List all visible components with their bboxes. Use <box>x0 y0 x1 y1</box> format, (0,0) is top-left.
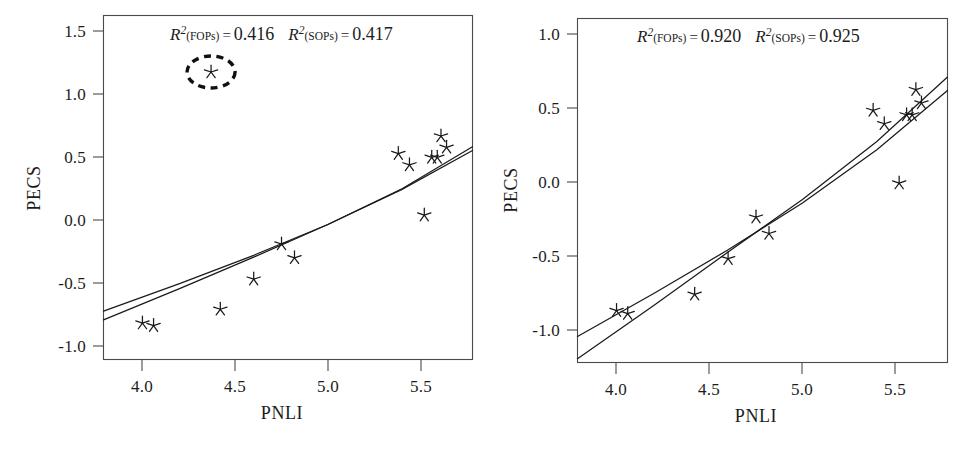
r2-sops-equals-right: = <box>808 29 816 45</box>
plot-frame-right <box>578 19 948 363</box>
r2-fops-value-right: 0.920 <box>701 26 742 46</box>
fit-line-left-fops <box>104 150 473 311</box>
y-axis-ticks-right <box>567 34 578 330</box>
scatter-markers-left <box>136 65 453 331</box>
data-point-marker <box>440 140 453 153</box>
x-axis-ticks-left <box>142 360 421 372</box>
r2-fops-symbol-right: R <box>636 27 648 46</box>
panel-right-canvas: 1.0 0.5 0.0 -0.5 -1.0 4.0 4.5 5.0 5.5 PN… <box>485 0 970 450</box>
r2-sops-subscript-right: (SOPs) <box>771 32 804 45</box>
data-point-marker <box>878 117 891 130</box>
r2-sops-symbol-left: R <box>287 25 299 44</box>
y-tick-label-left-4: -0.5 <box>58 274 86 293</box>
data-point-marker <box>749 210 762 223</box>
y-tick-label-left-5: -1.0 <box>58 337 86 356</box>
r2-sops-value-left: 0.417 <box>352 24 393 44</box>
data-point-marker <box>418 208 431 221</box>
data-point-marker <box>403 158 416 171</box>
r2-fops-equals-left: = <box>222 27 230 43</box>
y-axis-title-right: PECS <box>501 167 521 212</box>
panel-left: 1.5 1.0 0.5 0.0 -0.5 -1.0 4.0 4.5 5.0 5.… <box>0 0 485 450</box>
fit-line-right-sops <box>578 77 948 359</box>
y-axis-ticks-left <box>93 31 104 346</box>
r2-sops-subscript-left: (SOPs) <box>304 30 337 43</box>
r2-fops-value-left: 0.416 <box>234 24 275 44</box>
r2-sops-value-right: 0.925 <box>819 26 860 46</box>
x-tick-label-left-3: 5.5 <box>410 377 432 396</box>
data-point-marker <box>915 96 928 109</box>
x-tick-label-left-2: 5.0 <box>317 377 339 396</box>
svg-text:R2(FOPs)=0.416R2(SOPs)=0.417: R2(FOPs)=0.416R2(SOPs)=0.417 <box>169 24 393 44</box>
r2-annotation-right: R2(FOPs)=0.920R2(SOPs)=0.925 <box>636 26 860 46</box>
svg-text:R2(FOPs)=0.920R2(SOPs)=0.925: R2(FOPs)=0.920R2(SOPs)=0.925 <box>636 26 860 46</box>
r2-sops-symbol-right: R <box>754 27 766 46</box>
x-tick-label-left-1: 4.5 <box>224 377 246 396</box>
y-tick-label-right-0: 1.0 <box>538 25 560 44</box>
r2-fops-subscript-right: (FOPs) <box>653 32 686 45</box>
y-tick-label-right-4: -1.0 <box>532 321 560 340</box>
x-tick-label-right-2: 5.0 <box>791 380 813 399</box>
x-axis-title-left: PNLI <box>261 403 303 423</box>
r2-sops-equals-left: = <box>341 27 349 43</box>
plot-frame-left <box>104 16 473 360</box>
panel-left-canvas: 1.5 1.0 0.5 0.0 -0.5 -1.0 4.0 4.5 5.0 5.… <box>0 0 485 450</box>
x-tick-label-right-3: 5.5 <box>884 380 906 399</box>
fit-lines-left <box>104 147 473 320</box>
data-point-marker <box>866 103 879 116</box>
y-tick-label-left-2: 0.5 <box>64 148 86 167</box>
data-point-marker <box>434 129 447 142</box>
fit-line-left-sops <box>104 147 473 320</box>
y-tick-label-right-3: -0.5 <box>532 247 560 266</box>
y-tick-label-left-0: 1.5 <box>64 22 86 41</box>
x-axis-title-right: PNLI <box>735 406 777 426</box>
data-point-marker <box>392 147 405 160</box>
data-point-marker <box>288 251 301 264</box>
r2-annotation-left: R2(FOPs)=0.416R2(SOPs)=0.417 <box>169 24 393 44</box>
x-axis-ticks-right <box>616 363 895 375</box>
y-tick-label-left-1: 1.0 <box>64 85 86 104</box>
fit-lines-right <box>578 77 948 359</box>
r2-fops-subscript-left: (FOPs) <box>186 30 219 43</box>
y-tick-label-left-3: 0.0 <box>64 211 86 230</box>
r2-fops-equals-right: = <box>689 29 697 45</box>
data-point-marker <box>893 176 906 189</box>
x-tick-label-left-0: 4.0 <box>131 377 153 396</box>
y-tick-label-right-2: 0.0 <box>538 173 560 192</box>
r2-fops-symbol-left: R <box>169 25 181 44</box>
x-tick-label-right-1: 4.5 <box>698 380 720 399</box>
scatter-markers-right <box>610 83 928 320</box>
two-panel-scatter-figure: 1.5 1.0 0.5 0.0 -0.5 -1.0 4.0 4.5 5.0 5.… <box>0 0 971 450</box>
panel-right: 1.0 0.5 0.0 -0.5 -1.0 4.0 4.5 5.0 5.5 PN… <box>485 0 970 450</box>
data-point-marker <box>247 272 260 285</box>
x-tick-label-right-0: 4.0 <box>605 380 627 399</box>
data-point-marker <box>909 83 922 96</box>
data-point-marker <box>762 227 775 240</box>
data-point-marker <box>204 65 217 78</box>
data-point-marker <box>136 316 149 329</box>
y-axis-title-left: PECS <box>24 165 44 210</box>
data-point-marker <box>214 302 227 315</box>
data-point-marker <box>721 252 734 265</box>
data-point-marker <box>688 287 701 300</box>
y-tick-label-right-1: 0.5 <box>538 99 560 118</box>
